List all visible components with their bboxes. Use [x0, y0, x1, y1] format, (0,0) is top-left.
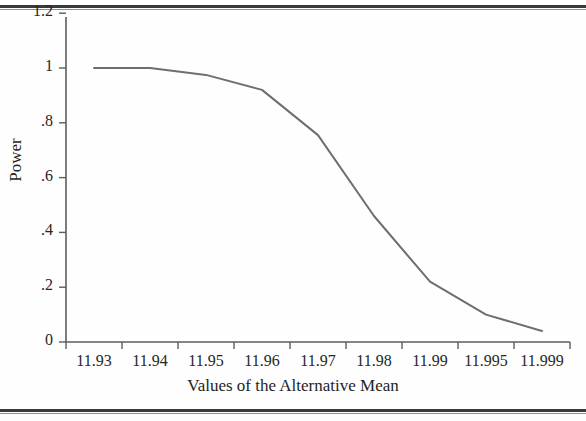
bottom-rule	[0, 409, 586, 412]
y-tick-label: 1.2	[0, 2, 53, 20]
y-tick-label: 1	[0, 57, 53, 75]
x-axis-title: Values of the Alternative Mean	[0, 376, 586, 396]
y-axis-title: Power	[6, 100, 26, 220]
y-tick-marks	[59, 13, 66, 342]
figure-panel: 0.2.4.6.811.2 11.9311.9411.9511.9611.971…	[0, 0, 586, 421]
y-tick-label: .2	[0, 276, 53, 294]
y-tick-label: .4	[0, 221, 53, 239]
power-series	[94, 68, 542, 331]
bottom-rule-secondary	[0, 413, 586, 414]
x-tick-marks	[66, 342, 570, 349]
x-tick-label: 11.999	[502, 352, 582, 370]
y-tick-label: 0	[0, 331, 53, 349]
